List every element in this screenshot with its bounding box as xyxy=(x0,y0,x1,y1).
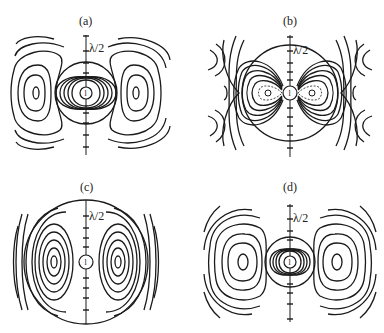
panel-d: (d) λ/2 l xyxy=(204,180,376,322)
panel-b: (b) λ/2 xyxy=(208,14,372,157)
panel-label-c: (c) xyxy=(80,180,93,194)
radiation-lobe-right xyxy=(314,206,376,318)
radiation-lobe-left xyxy=(26,208,73,316)
scale-label-a: λ/2 xyxy=(89,41,104,55)
near-field-lobe-right xyxy=(297,61,346,125)
panel-label-b: (b) xyxy=(283,14,297,28)
outer-field-lines-left xyxy=(208,36,244,150)
scale-label-d: λ/2 xyxy=(293,211,308,225)
near-field-lobe-left xyxy=(234,61,283,125)
panel-a: (a) λ/2 l xyxy=(11,14,170,155)
radiation-lobe-left xyxy=(204,206,266,318)
radiation-lobe-left xyxy=(11,37,64,150)
panel-c: (c) λ/2 l xyxy=(14,180,159,324)
panel-label-a: (a) xyxy=(79,14,92,28)
scale-label-c: λ/2 xyxy=(89,209,104,223)
outer-field-lines-right xyxy=(336,36,372,150)
dipole-radiation-figure: (a) λ/2 l xyxy=(0,0,384,333)
radiation-lobe-right xyxy=(99,208,146,316)
panel-label-d: (d) xyxy=(283,180,297,194)
